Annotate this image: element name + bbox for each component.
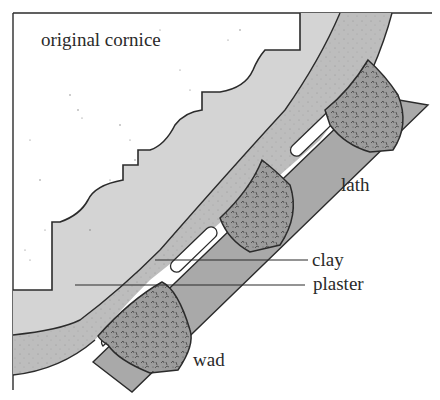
cornice-diagram: original cornice lath clay plaster wad xyxy=(0,0,440,400)
diagram-drawing xyxy=(0,0,440,400)
plaster-label: plaster xyxy=(313,274,364,293)
clay-label: clay xyxy=(312,250,344,269)
wad-label: wad xyxy=(193,350,225,369)
original-cornice-label: original cornice xyxy=(41,30,161,49)
lath-label: lath xyxy=(341,175,370,194)
